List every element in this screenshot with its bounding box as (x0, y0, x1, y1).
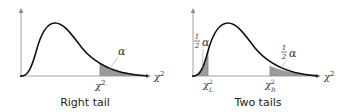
panel-caption-right-tail: Right tail (60, 96, 110, 109)
right-critical-value-label: χ2R (264, 78, 276, 93)
left-half-alpha-num: 1 (195, 33, 199, 41)
x-axis-label: χ2 (153, 70, 165, 82)
right-tail-diagram: α χ2 χ2 Right tail (20, 9, 165, 109)
critical-value-label: χ2 (94, 79, 106, 91)
right-half-alpha-symbol: α (289, 47, 297, 60)
right-half-alpha-den: 2 (281, 53, 287, 61)
alpha-label: α (118, 45, 126, 58)
chi-square-curve (20, 23, 148, 76)
right-half-alpha-num: 1 (282, 44, 286, 52)
two-tails-diagram: 1 2 α 1 2 α χ2 χ2L χ2R Two tails (192, 9, 335, 109)
x-axis-label: χ2 (323, 70, 335, 82)
left-critical-value-label: χ2L (202, 78, 213, 93)
chi-square-curve (192, 23, 318, 76)
right-tail-shaded-area (100, 64, 148, 76)
panel-caption-two-tails: Two tails (233, 96, 281, 109)
left-half-alpha-den: 2 (194, 42, 200, 50)
left-half-alpha-symbol: α (202, 36, 210, 49)
